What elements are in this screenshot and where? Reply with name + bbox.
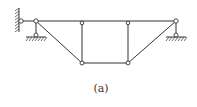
bottom-left-node bbox=[80, 61, 84, 65]
top-left-node bbox=[34, 19, 38, 23]
right-diagonal bbox=[128, 21, 176, 63]
bottom-right-node bbox=[126, 61, 130, 65]
figure-caption: (a) bbox=[0, 82, 197, 95]
top-right-node bbox=[174, 19, 178, 23]
left-wall-hatch bbox=[15, 8, 19, 32]
right-ground-hatch bbox=[166, 37, 187, 41]
left-ground-hatch bbox=[26, 37, 47, 41]
top-mid-left-node bbox=[80, 21, 84, 25]
left-diagonal bbox=[36, 21, 82, 63]
left-support-hinge bbox=[34, 33, 38, 37]
right-support-hinge bbox=[174, 33, 178, 37]
wall-hinge-node bbox=[19, 19, 23, 23]
top-mid-right-node bbox=[126, 21, 130, 25]
